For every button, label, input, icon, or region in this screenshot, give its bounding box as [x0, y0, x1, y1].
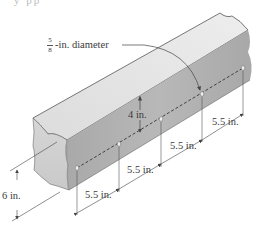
- cut-off-header-text: y pp: [14, 0, 41, 6]
- hole-1: [75, 166, 79, 171]
- hole-height-label: 4 in.: [128, 110, 147, 121]
- hole-2: [117, 142, 121, 147]
- spacing-label-2: 5.5 in.: [127, 165, 154, 176]
- spacing-label-3: 5.5 in.: [170, 141, 197, 152]
- beam-diagram: y pp 5 8 -in. diameter 4 in. 6 in. 5.5 i…: [0, 0, 258, 231]
- fraction-5-8: 5 8: [47, 37, 53, 54]
- beam-height-label: 6 in.: [2, 191, 21, 202]
- spacing-label-1: 5.5 in.: [85, 190, 112, 201]
- hole-5: [241, 66, 245, 71]
- spacing-label-4: 5.5 in.: [212, 117, 239, 128]
- hole-3: [159, 117, 163, 122]
- hole-4: [200, 92, 204, 97]
- diameter-label: -in. diameter: [55, 40, 109, 51]
- fraction-denominator: 8: [48, 46, 52, 54]
- fraction-numerator: 5: [48, 36, 52, 44]
